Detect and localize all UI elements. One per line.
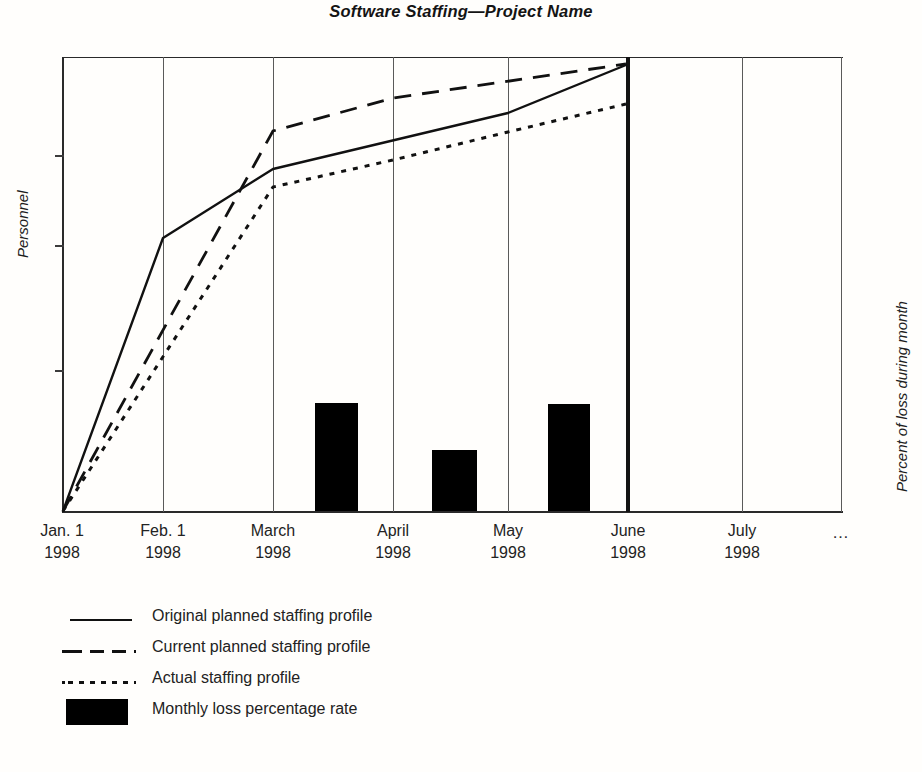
legend: Original planned staffing profile Curren… xyxy=(62,604,582,728)
x-tick-label-july: July 1998 xyxy=(682,520,802,564)
chart-title: Software Staffing—Project Name xyxy=(0,2,922,21)
x-tick-june-month: June xyxy=(568,520,688,542)
x-tick-june-year: 1998 xyxy=(568,542,688,564)
legend-item-current-planned: Current planned staffing profile xyxy=(62,635,582,666)
chart-figure: Software Staffing—Project Name Personnel… xyxy=(0,0,922,772)
legend-swatch-dashed-line-icon xyxy=(62,635,136,666)
x-tick-may-year: 1998 xyxy=(448,542,568,564)
legend-label-current-planned: Current planned staffing profile xyxy=(152,638,371,656)
legend-label-actual-staffing: Actual staffing profile xyxy=(152,669,300,687)
legend-swatch-dotted-line-icon xyxy=(62,666,136,697)
x-tick-feb-month: Feb. 1 xyxy=(103,520,223,542)
line-actual-staffing xyxy=(63,104,626,511)
y-axis-label-left: Personnel xyxy=(14,190,31,258)
x-tick-may-month: May xyxy=(448,520,568,542)
plot-area xyxy=(62,57,843,512)
x-tick-label-march: March 1998 xyxy=(213,520,333,564)
x-tick-march-month: March xyxy=(213,520,333,542)
x-axis-overflow-ellipsis: … xyxy=(832,523,851,543)
x-tick-july-year: 1998 xyxy=(682,542,802,564)
x-tick-feb-year: 1998 xyxy=(103,542,223,564)
x-tick-april-month: April xyxy=(333,520,453,542)
series-lines xyxy=(62,57,843,513)
x-tick-label-may: May 1998 xyxy=(448,520,568,564)
x-tick-label-feb: Feb. 1 1998 xyxy=(103,520,223,564)
legend-item-original-planned: Original planned staffing profile xyxy=(62,604,582,635)
legend-label-original-planned: Original planned staffing profile xyxy=(152,607,372,625)
line-current-planned-staffing xyxy=(63,64,626,511)
y-axis-label-right: Percent of loss during month xyxy=(893,301,910,492)
x-tick-july-month: July xyxy=(682,520,802,542)
legend-swatch-filled-rectangle-icon xyxy=(62,697,136,728)
legend-item-actual-staffing: Actual staffing profile xyxy=(62,666,582,697)
x-tick-april-year: 1998 xyxy=(333,542,453,564)
x-tick-label-june: June 1998 xyxy=(568,520,688,564)
legend-label-monthly-loss: Monthly loss percentage rate xyxy=(152,700,357,718)
line-original-planned-staffing xyxy=(63,65,626,511)
legend-swatch-solid-line-icon xyxy=(62,604,136,635)
legend-item-monthly-loss: Monthly loss percentage rate xyxy=(62,697,582,728)
x-tick-march-year: 1998 xyxy=(213,542,333,564)
x-tick-label-april: April 1998 xyxy=(333,520,453,564)
